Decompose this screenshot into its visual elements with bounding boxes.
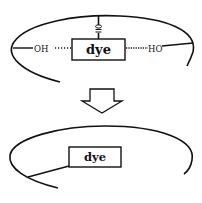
left-hydroxyl-label: OH xyxy=(34,44,48,54)
bottom-panel: dye xyxy=(10,126,192,188)
top-panel: OH dye HO xyxy=(11,16,193,82)
tether-line xyxy=(28,166,69,177)
right-hydroxyl-label: HO xyxy=(148,44,162,54)
bottom-dye-label: dye xyxy=(84,150,106,164)
down-arrow-icon xyxy=(82,89,122,113)
dye-binding-diagram: OH dye HO dye xyxy=(0,0,202,203)
top-substituent-icon xyxy=(96,16,102,39)
right-bond-line xyxy=(162,43,193,46)
top-dye-label: dye xyxy=(86,42,111,57)
